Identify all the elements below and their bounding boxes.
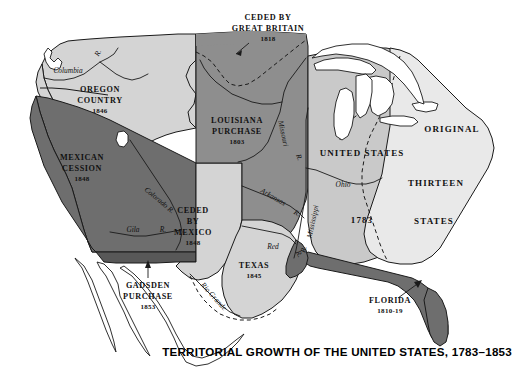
label-mexican-cession-line1: MEXICAN [60, 153, 104, 162]
label-texas-name: TEXAS [239, 261, 269, 270]
label-texas-year: 1845 [246, 272, 261, 280]
label-ceded-great-britain-line1: CEDED BY [245, 13, 292, 22]
label-louisiana-purchase-line1: LOUISIANA [211, 116, 263, 125]
label-florida-year: 1810-19 [377, 307, 403, 315]
territory-ceded-by-great-britain [196, 32, 306, 46]
label-ceded-great-britain-line2: GREAT BRITAIN [232, 24, 305, 33]
label-mexican-cession-line2: CESSION [62, 164, 102, 173]
label-united-states-name: UNITED STATES [320, 148, 405, 158]
label-thirteen: THIRTEEN [408, 178, 464, 188]
river-label-gila-r: R. [159, 225, 167, 234]
label-original: ORIGINAL [424, 124, 479, 134]
label-ceded-by-mexico-line3: MEXICO [174, 228, 212, 237]
river-label-gila: Gila [126, 225, 139, 234]
territory-gadsden-purchase [96, 252, 196, 263]
label-united-states-year: 1783 [351, 215, 373, 225]
label-ceded-by-mexico-year: 1848 [185, 239, 200, 247]
label-oregon-country-line1: OREGON [80, 85, 120, 94]
florida-peninsula [424, 288, 448, 346]
label-florida-name: FLORIDA [369, 296, 411, 305]
great-salt-lake [116, 131, 128, 147]
label-ceded-by-mexico-line1: CEDED [177, 206, 209, 215]
label-oregon-country-line2: COUNTRY [77, 96, 122, 105]
us-territorial-growth-map: CEDED BY GREAT BRITAIN 1818 OREGON COUNT… [0, 0, 527, 382]
river-label-red: Red [266, 242, 279, 251]
label-gadsden-purchase-line1: GADSDEN [126, 281, 170, 290]
label-states: STATES [414, 216, 454, 226]
label-mexican-cession-year: 1848 [74, 175, 89, 183]
river-label-ohio: Ohio [336, 180, 351, 189]
label-ceded-great-britain-year: 1818 [260, 35, 275, 43]
historical-map-figure: CEDED BY GREAT BRITAIN 1818 OREGON COUNT… [0, 0, 527, 382]
label-louisiana-purchase-line2: PURCHASE [212, 127, 262, 136]
label-ceded-by-mexico-line2: BY [187, 217, 200, 226]
label-oregon-country-year: 1846 [92, 107, 107, 115]
label-gadsden-purchase-year: 1853 [140, 303, 155, 311]
map-title: TERRITORIAL GROWTH OF THE UNITED STATES,… [162, 345, 512, 358]
label-gadsden-purchase-line2: PURCHASE [123, 292, 173, 301]
river-label-columbia: Columbia [53, 66, 82, 75]
label-louisiana-purchase-year: 1803 [229, 138, 244, 146]
